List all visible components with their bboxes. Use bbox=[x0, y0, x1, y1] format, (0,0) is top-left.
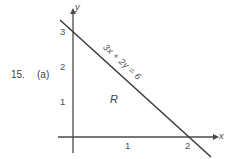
x-axis-label: x bbox=[219, 131, 224, 141]
graph-canvas bbox=[0, 0, 232, 159]
x-axis-tick-label-2: 2 bbox=[185, 141, 190, 151]
y-axis-tick-label-2: 2 bbox=[60, 62, 65, 72]
problem-part-label: (a) bbox=[37, 70, 49, 80]
problem-number: 15. bbox=[11, 70, 25, 80]
y-axis-tick-label-3: 3 bbox=[60, 27, 65, 37]
y-axis-tick-label-1: 1 bbox=[60, 97, 65, 107]
figure-page: 15. (a) 3 2 1 1 2 y x R 3x + 2y = 6 bbox=[0, 0, 232, 159]
y-axis-label: y bbox=[75, 2, 80, 12]
x-axis-tick-label-1: 1 bbox=[125, 141, 130, 151]
region-label-r: R bbox=[110, 94, 118, 105]
